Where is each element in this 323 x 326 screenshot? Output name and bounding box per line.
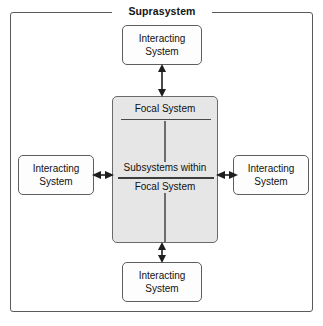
focal-system-rule-top	[121, 119, 211, 120]
focal-system-box[interactable]: Focal System Subsystems within Focal Sys…	[112, 96, 218, 243]
focal-system-title: Focal System	[113, 102, 217, 115]
suprasystem-title: Suprasystem	[112, 3, 212, 19]
subsystems-label-line2: Focal System	[113, 180, 217, 193]
interacting-system-left-line1: Interacting	[33, 162, 80, 175]
interacting-system-right[interactable]: Interacting System	[233, 155, 309, 195]
interacting-system-top[interactable]: Interacting System	[122, 25, 202, 65]
interacting-system-left-line2: System	[39, 175, 72, 188]
arrow-left-horizontal	[92, 166, 114, 184]
system-diagram: Suprasystem Interacting System Interacti…	[0, 0, 323, 326]
subsystem-divider-upper	[164, 121, 165, 162]
subsystem-divider-lower	[164, 193, 165, 242]
subsystems-label-line1: Subsystems within	[113, 161, 217, 174]
interacting-system-right-line2: System	[254, 175, 287, 188]
subsystems-rule-middle	[118, 177, 214, 179]
interacting-system-right-line1: Interacting	[248, 162, 295, 175]
arrow-bottom-vertical	[153, 242, 171, 263]
interacting-system-top-line1: Interacting	[139, 32, 186, 45]
interacting-system-bottom[interactable]: Interacting System	[122, 262, 202, 302]
interacting-system-bottom-line2: System	[145, 282, 178, 295]
interacting-system-top-line2: System	[145, 45, 178, 58]
interacting-system-bottom-line1: Interacting	[139, 269, 186, 282]
arrow-top-vertical	[153, 64, 171, 97]
interacting-system-left[interactable]: Interacting System	[18, 155, 94, 195]
arrow-right-horizontal	[216, 166, 238, 184]
